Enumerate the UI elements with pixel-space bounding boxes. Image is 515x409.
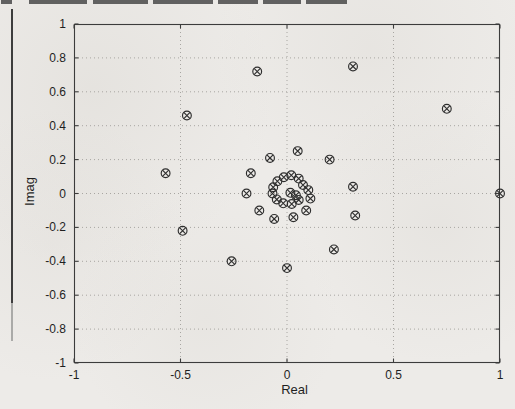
marker-x <box>350 184 356 190</box>
margin-rule-line-tail <box>11 303 13 341</box>
data-point-marker <box>266 154 275 163</box>
clipped-header-segment <box>29 0 87 4</box>
data-point-marker <box>299 181 308 190</box>
x-tick-label: -0.5 <box>170 369 191 381</box>
marker-x <box>284 265 290 271</box>
y-tick-label: -1 <box>0 357 66 369</box>
data-point-marker <box>302 206 311 215</box>
marker-x <box>229 258 235 264</box>
clipped-header-segment <box>218 0 258 4</box>
scanned-page: 10.80.60.40.20-0.2-0.4-0.6-0.8-1 -1-0.50… <box>0 0 515 409</box>
data-point-marker <box>183 111 192 120</box>
data-point-marker <box>272 195 281 204</box>
marker-x <box>243 190 249 196</box>
data-point-marker <box>246 169 255 178</box>
data-point-marker <box>293 147 302 156</box>
y-tick-label: -0.8 <box>0 323 66 335</box>
marker-x <box>296 176 302 182</box>
marker-x <box>288 172 294 178</box>
clipped-header-segment <box>1 0 12 4</box>
marker-x <box>184 112 190 118</box>
clipped-header-text <box>0 0 515 6</box>
scatter-plot <box>74 24 500 363</box>
marker-x <box>163 170 169 176</box>
y-tick-label: 0.8 <box>0 52 66 64</box>
clipped-header-segment <box>263 0 301 4</box>
marker-x <box>290 214 296 220</box>
clipped-header-segment <box>93 0 148 4</box>
x-tick-label: 1 <box>497 369 504 381</box>
data-point-marker <box>273 177 282 186</box>
x-tick-label: 0.5 <box>385 369 402 381</box>
marker-x <box>444 106 450 112</box>
x-tick-label: 0 <box>284 369 291 381</box>
marker-x <box>248 170 254 176</box>
data-point-marker <box>330 245 339 254</box>
data-point-marker <box>351 211 360 220</box>
y-tick-label: -0.4 <box>0 255 66 267</box>
marker-x <box>303 207 309 213</box>
data-point-marker <box>306 194 315 203</box>
clipped-header-segment <box>153 0 213 4</box>
marker-x <box>307 196 313 202</box>
data-point-marker <box>255 206 264 215</box>
data-point-marker <box>289 213 298 222</box>
clipped-header-segment <box>306 0 347 4</box>
marker-x <box>280 200 286 206</box>
y-tick-label: 1 <box>0 18 66 30</box>
y-tick-label: 0.4 <box>0 120 66 132</box>
data-point-marker <box>442 104 451 113</box>
data-point-marker <box>253 67 262 76</box>
marker-x <box>271 216 277 222</box>
marker-x <box>350 63 356 69</box>
x-tick-label: -1 <box>69 369 80 381</box>
marker-x <box>295 148 301 154</box>
marker-x <box>256 207 262 213</box>
data-point-marker <box>349 182 358 191</box>
data-point-marker <box>279 199 288 208</box>
data-point-marker <box>242 189 251 198</box>
y-tick-label: 0.6 <box>0 86 66 98</box>
data-point-marker <box>161 169 170 178</box>
data-point-marker <box>268 189 277 198</box>
data-point-marker <box>349 62 358 71</box>
y-axis-label: Imag <box>22 137 37 247</box>
data-point-marker <box>283 264 292 273</box>
marker-x <box>289 201 295 207</box>
marker-x <box>180 228 186 234</box>
marker-x <box>352 212 358 218</box>
plot-area <box>74 24 500 363</box>
marker-x <box>254 68 260 74</box>
marker-x <box>331 246 337 252</box>
x-axis-label: Real <box>0 382 515 397</box>
y-tick-label: -0.6 <box>0 289 66 301</box>
data-point-marker <box>270 215 279 224</box>
marker-x <box>327 157 333 163</box>
